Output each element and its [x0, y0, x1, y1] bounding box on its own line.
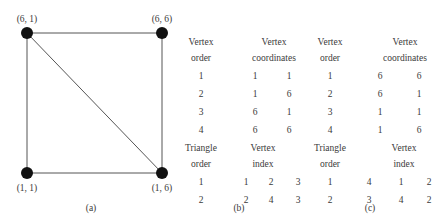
- cell: 1: [253, 71, 258, 82]
- cell: 1: [244, 177, 249, 188]
- cell: 2: [199, 89, 204, 100]
- cell: 1: [199, 71, 204, 82]
- header-vertex-coordinates: coordinates: [383, 53, 427, 64]
- cell: 3: [199, 107, 204, 118]
- cell: 3: [296, 195, 301, 206]
- vertex-node-bottom-right: [156, 167, 168, 179]
- cell: 1: [328, 71, 333, 82]
- vertex-label: (1, 1): [17, 183, 38, 194]
- header-vertex-order: order: [191, 53, 211, 64]
- edge-diagonal: [27, 33, 162, 173]
- cell: 1: [399, 177, 404, 188]
- cell: 4: [328, 125, 333, 136]
- cell: 1: [287, 71, 292, 82]
- cell: 1: [287, 107, 292, 118]
- header-vertex-index: index: [252, 159, 273, 170]
- header-vertex-index: Vertex: [251, 143, 276, 154]
- cell: 6: [253, 107, 258, 118]
- cell: 1: [378, 125, 383, 136]
- cell: 1: [253, 89, 258, 100]
- cell: 6: [253, 125, 258, 136]
- cell: 1: [199, 177, 204, 188]
- cell: 2: [328, 195, 333, 206]
- header-triangle-order: order: [191, 159, 211, 170]
- panel-caption-a: (a): [86, 203, 97, 214]
- header-vertex-coordinates: coordinates: [252, 53, 296, 64]
- cell: 6: [287, 89, 292, 100]
- cell: 6: [417, 71, 422, 82]
- vertex-node-top-right: [156, 27, 168, 39]
- cell: 4: [399, 195, 404, 206]
- cell: 1: [328, 177, 333, 188]
- header-vertex-order: order: [320, 53, 340, 64]
- header-vertex-coordinates: Vertex: [393, 37, 418, 48]
- header-vertex-index: index: [393, 159, 414, 170]
- cell: 2: [427, 177, 432, 188]
- cell: 2: [328, 89, 333, 100]
- cell: 2: [427, 195, 432, 206]
- cell: 6: [287, 125, 292, 136]
- cell: 1: [378, 107, 383, 118]
- header-vertex-coordinates: Vertex: [262, 37, 287, 48]
- cell: 2: [199, 195, 204, 206]
- header-triangle-order: Triangle: [185, 143, 217, 154]
- cell: 1: [417, 89, 422, 100]
- panel-caption-b: (b): [233, 203, 244, 214]
- header-vertex-index: Vertex: [392, 143, 417, 154]
- cell: 3: [296, 177, 301, 188]
- cell: 6: [378, 89, 383, 100]
- vertex-label: (1, 6): [152, 183, 173, 194]
- vertex-node-top-left: [21, 27, 33, 39]
- cell: 4: [367, 177, 372, 188]
- vertex-label: (6, 1): [17, 14, 38, 25]
- cell: 1: [417, 107, 422, 118]
- cell: 6: [378, 71, 383, 82]
- cell: 6: [417, 125, 422, 136]
- vertex-label: (6, 6): [152, 14, 173, 25]
- cell: 2: [269, 177, 274, 188]
- cell: 4: [269, 195, 274, 206]
- panel-caption-c: (c): [365, 203, 376, 214]
- vertex-node-bottom-left: [21, 167, 33, 179]
- header-triangle-order: order: [320, 159, 340, 170]
- header-triangle-order: Triangle: [314, 143, 346, 154]
- header-vertex-order: Vertex: [318, 37, 343, 48]
- cell: 4: [199, 125, 204, 136]
- cell: 3: [328, 107, 333, 118]
- header-vertex-order: Vertex: [189, 37, 214, 48]
